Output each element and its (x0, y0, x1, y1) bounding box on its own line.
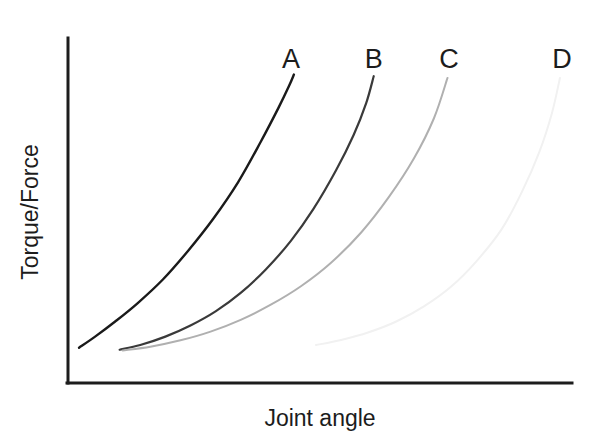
axis-group (67, 38, 572, 383)
curve-a (79, 75, 294, 348)
chart-figure: ABCD Joint angle Torque/Force (0, 0, 594, 443)
curve-label-d: D (552, 46, 572, 73)
curve-label-a: A (282, 46, 300, 73)
curve-b (120, 76, 374, 350)
x-axis-label: Joint angle (264, 405, 375, 432)
curve-d (316, 78, 560, 345)
series-group (79, 75, 560, 351)
curve-label-b: B (365, 46, 383, 73)
curve-label-c: C (439, 46, 459, 73)
curve-c (123, 78, 448, 351)
y-axis-label: Torque/Force (17, 144, 44, 280)
